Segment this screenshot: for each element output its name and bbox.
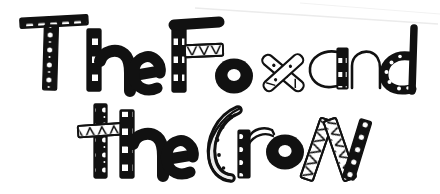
letter-e-2 [166, 141, 193, 174]
letter-e-1 [133, 57, 160, 90]
letter-o-1 [215, 59, 253, 94]
title-lettering-svg [0, 0, 440, 194]
decorative-title-artwork: The Fox and the Crow [0, 0, 440, 194]
paper-background [0, 0, 440, 194]
letter-o-2 [266, 135, 304, 170]
